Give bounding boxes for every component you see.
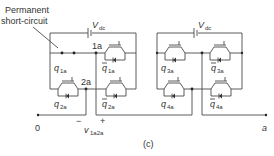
switch-q4a-bar-label: q [210,99,215,109]
switch-q4a-label: q [161,99,166,109]
switch-q4a-bar [211,77,231,99]
svg-text:2a: 2a [108,104,115,110]
node-1a-label: 1a [92,41,102,51]
h-bridge-circuit-diagram: Permanent short-circuit V dc 1a q 1a q 1… [0,0,274,156]
right-h-bridge: V dc q 3a q 3a q 4a q 4a [156,20,243,115]
short-circuit-dot [73,52,76,55]
svg-text:dc: dc [99,25,105,31]
svg-text:4a: 4a [167,104,174,110]
switch-q2a-bar [106,77,126,99]
svg-text:2a: 2a [60,104,67,110]
switch-q1a-bar-label: q [102,63,107,73]
switch-q3a-bar-label: q [211,63,216,73]
svg-text:3a: 3a [167,68,174,74]
vdc-label-right: V [198,20,205,30]
svg-text:1a: 1a [60,68,67,74]
annotation-short-circuit: short-circuit [1,16,48,26]
switch-q3a-bar [210,41,230,63]
svg-text:1a: 1a [108,68,115,74]
voltage-minus: − [76,116,81,126]
svg-text:dc: dc [205,25,211,31]
svg-text:1a2a: 1a2a [90,130,104,136]
short-circuit-dot [61,52,64,55]
switch-q1a-label: q [54,63,59,73]
switch-q3a [165,41,185,63]
annotation-arrow [33,27,58,48]
switch-q1a-bar [105,41,125,63]
switch-q2a-bar-label: q [102,99,107,109]
left-h-bridge: V dc 1a q 1a q 1a 2a q 2a q 2a [50,20,136,115]
node-2a-label: 2a [81,77,91,87]
terminal-a-label: a [262,123,267,133]
annotation-permanent: Permanent [5,5,50,15]
switch-q2a-label: q [54,99,59,109]
svg-text:4a: 4a [216,104,223,110]
voltage-plus: + [100,116,105,126]
switch-q2a [58,77,78,99]
switch-q3a-label: q [161,63,166,73]
svg-text:3a: 3a [217,68,224,74]
switch-q4a [164,77,184,99]
vdc-label-left: V [92,20,99,30]
figure-caption: (c) [143,139,154,149]
terminal-0-label: 0 [35,123,40,133]
voltage-label: v [84,125,89,135]
